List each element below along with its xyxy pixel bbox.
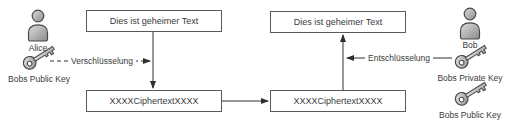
encrypt-arrow-label: Verschlüsselung: [68, 56, 136, 66]
bob-person-icon: [457, 7, 483, 40]
plaintext-box-left-label: Dies ist geheimer Text: [110, 16, 198, 26]
plaintext-box-left: Dies ist geheimer Text: [86, 10, 222, 32]
ciphertext-box-left: XXXXCiphertextXXXX: [86, 90, 222, 112]
ciphertext-box-left-label: XXXXCiphertextXXXX: [109, 96, 198, 106]
alice-person-icon: [25, 9, 51, 42]
bobs-public-key-icon-bob: [452, 84, 490, 102]
alice-key-label: Bobs Public Key: [8, 74, 70, 84]
bobs-public-key-icon-alice: [20, 48, 58, 66]
plaintext-box-right: Dies ist geheimer Text: [270, 11, 406, 33]
bob-public-key-label: Bobs Public Key: [439, 110, 501, 120]
bobs-private-key-icon: [452, 47, 490, 65]
encryption-diagram: Dies ist geheimer Text Dies ist geheimer…: [0, 0, 513, 128]
ciphertext-box-right-label: XXXXCiphertextXXXX: [293, 96, 382, 106]
plaintext-box-right-label: Dies ist geheimer Text: [294, 17, 382, 27]
ciphertext-box-right: XXXXCiphertextXXXX: [270, 90, 406, 112]
decrypt-arrow-label: Entschlüsselung: [365, 53, 433, 63]
